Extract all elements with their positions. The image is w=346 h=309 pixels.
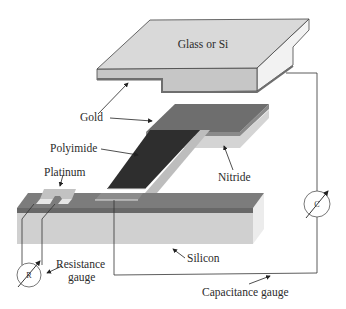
label-resistance-gauge-2: gauge [68,271,95,284]
diagram-canvas: Glass or Si [0,0,346,309]
label-polyimide: Polyimide [50,142,97,155]
top-plate-label: Glass or Si [178,38,228,50]
polyimide-strip [95,130,210,200]
device-diagram: Glass or Si [0,0,346,309]
label-silicon: Silicon [187,252,220,264]
label-capacitance-gauge: Capacitance gauge [202,286,289,299]
capacitance-gauge-meter: C [304,191,330,218]
top-plate-glass-or-si: Glass or Si [97,19,309,92]
silicon-base [17,193,264,244]
label-platinum: Platinum [44,166,86,178]
label-nitride: Nitride [218,171,251,183]
resistance-gauge-meter: R [17,261,41,287]
label-resistance-gauge-1: Resistance [56,258,105,270]
label-gold: Gold [80,111,103,123]
